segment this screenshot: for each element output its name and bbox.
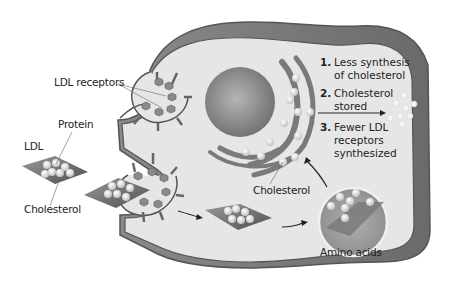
step-1: 1. Less synthesis of cholesterol bbox=[334, 56, 410, 82]
step-1-number: 1. bbox=[320, 56, 331, 69]
nucleus bbox=[205, 67, 275, 137]
label-ldl: LDL bbox=[24, 140, 43, 152]
label-amino-acids: Amino acids bbox=[320, 246, 382, 258]
step-3: 3. Fewer LDL receptors synthesized bbox=[334, 121, 397, 160]
label-ldl-receptors: LDL receptors bbox=[54, 76, 124, 88]
step-3-number: 3. bbox=[320, 121, 331, 134]
step-3-line3: synthesized bbox=[334, 147, 397, 160]
step-3-line1: Fewer LDL bbox=[334, 121, 397, 134]
label-protein: Protein bbox=[58, 118, 93, 130]
ldl-particle-free bbox=[22, 156, 88, 184]
step-1-line1: Less synthesis bbox=[334, 56, 410, 69]
step-1-line2: of cholesterol bbox=[334, 69, 410, 82]
label-cholesterol-inner: Cholesterol bbox=[253, 184, 310, 196]
step-2-line2: stored bbox=[334, 100, 393, 113]
label-cholesterol-outer: Cholesterol bbox=[24, 203, 81, 215]
step-2-number: 2. bbox=[320, 87, 331, 100]
step-2-line1: Cholesterol bbox=[334, 87, 393, 100]
step-2: 2. Cholesterol stored bbox=[334, 87, 393, 113]
step-3-line2: receptors bbox=[334, 134, 397, 147]
